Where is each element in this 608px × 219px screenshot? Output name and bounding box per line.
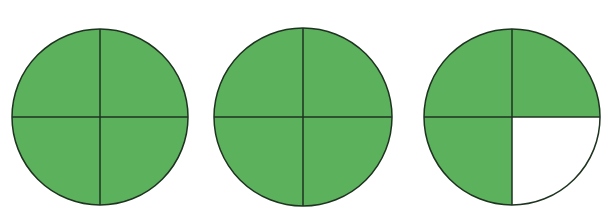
quadrant-bottom-right-shaded bbox=[303, 117, 392, 206]
quadrant-bottom-left-shaded bbox=[214, 117, 303, 206]
quadrant-bottom-left-shaded bbox=[12, 117, 100, 205]
fraction-circle bbox=[12, 29, 188, 205]
quadrant-top-left-shaded bbox=[12, 29, 100, 117]
quadrant-bottom-right-shaded bbox=[100, 117, 188, 205]
quadrant-bottom-right-empty bbox=[512, 117, 600, 205]
quadrant-top-right-shaded bbox=[512, 29, 600, 117]
quadrant-top-right-shaded bbox=[100, 29, 188, 117]
quadrant-top-right-shaded bbox=[303, 28, 392, 117]
fraction-circle bbox=[424, 29, 600, 205]
quadrant-bottom-left-shaded bbox=[424, 117, 512, 205]
fraction-circle bbox=[214, 28, 392, 206]
fraction-diagram bbox=[0, 0, 608, 219]
quadrant-top-left-shaded bbox=[424, 29, 512, 117]
quadrant-top-left-shaded bbox=[214, 28, 303, 117]
